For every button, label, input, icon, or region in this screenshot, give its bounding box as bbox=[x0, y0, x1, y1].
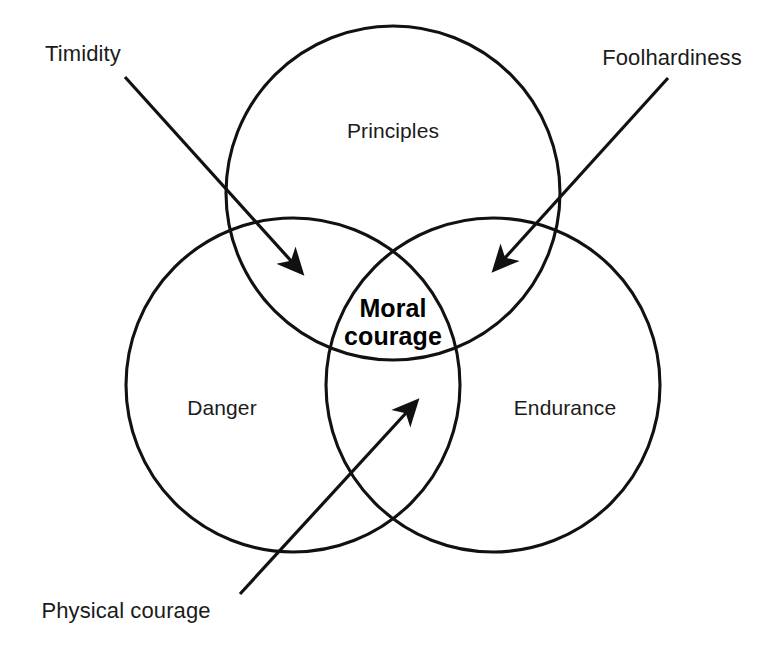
arrow-foolhardiness bbox=[494, 78, 668, 270]
label-principles: Principles bbox=[347, 119, 439, 143]
label-timidity: Timidity bbox=[45, 41, 121, 67]
label-endurance: Endurance bbox=[514, 396, 616, 420]
venn-diagram-canvas: Principles Danger Endurance Moral courag… bbox=[0, 0, 783, 653]
label-moral-courage-line-1: Moral bbox=[344, 294, 442, 322]
arrow-physical-courage bbox=[240, 401, 417, 594]
circle-endurance bbox=[326, 218, 660, 552]
label-danger: Danger bbox=[187, 396, 256, 420]
label-physical-courage: Physical courage bbox=[41, 598, 210, 624]
arrow-timidity bbox=[125, 77, 302, 273]
label-moral-courage: Moral courage bbox=[344, 294, 442, 350]
label-moral-courage-line-2: courage bbox=[344, 322, 442, 350]
circle-danger bbox=[126, 218, 460, 552]
label-foolhardiness: Foolhardiness bbox=[602, 45, 742, 71]
